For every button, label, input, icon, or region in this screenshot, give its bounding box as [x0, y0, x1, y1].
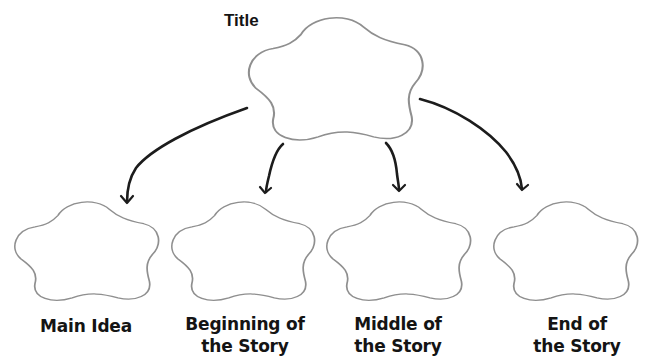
main-idea-cloud[interactable]: [15, 202, 159, 300]
arrow-to-main-idea: [121, 108, 247, 203]
main-idea-label-line1: Main Idea: [28, 315, 144, 337]
diagram-canvas: [0, 0, 648, 360]
arrow-to-end: [420, 99, 528, 190]
end-cloud[interactable]: [494, 202, 638, 300]
title-cloud[interactable]: [249, 18, 423, 140]
main-idea-label: Main Idea: [28, 315, 144, 337]
beginning-label-line1: Beginning of: [183, 313, 307, 335]
end-label-line2: the Story: [519, 335, 635, 357]
middle-cloud[interactable]: [327, 202, 471, 300]
beginning-cloud[interactable]: [172, 202, 315, 300]
middle-label-line2: the Story: [340, 335, 456, 357]
middle-label-line1: Middle of: [340, 313, 456, 335]
beginning-label: Beginning of the Story: [183, 313, 307, 357]
end-label-line1: End of: [519, 313, 635, 335]
title-label: Title: [224, 11, 259, 31]
end-label: End of the Story: [519, 313, 635, 357]
beginning-label-line2: the Story: [183, 335, 307, 357]
arrow-to-beginning: [260, 144, 283, 193]
arrow-to-middle: [386, 143, 405, 191]
middle-label: Middle of the Story: [340, 313, 456, 357]
